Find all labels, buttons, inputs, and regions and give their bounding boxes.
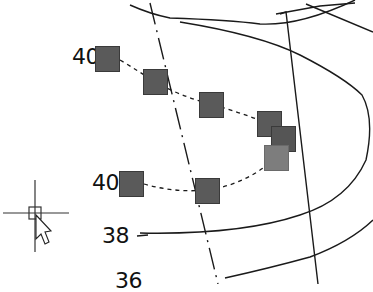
arrow-pointer-icon (36, 215, 51, 244)
